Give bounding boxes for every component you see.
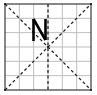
figure-container: Grid with letter N and symmetry lines A … xyxy=(0,0,97,95)
corner-marker-bottom-right xyxy=(90,89,92,91)
symmetry-grid-figure: Grid with letter N and symmetry lines A … xyxy=(0,0,97,95)
corner-marker-bottom-left xyxy=(4,89,6,91)
corner-marker-center xyxy=(47,46,49,48)
corner-marker-top-left xyxy=(4,3,6,5)
corner-marker-top-right xyxy=(90,3,92,5)
